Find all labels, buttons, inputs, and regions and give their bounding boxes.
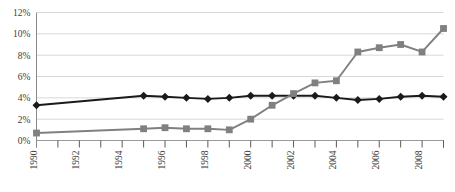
y-gridlines (37, 13, 444, 141)
y-tick-label: 10% (13, 29, 31, 39)
x-tick-label: 2002 (286, 150, 296, 169)
data-point-marker (226, 126, 233, 133)
y-tick-label: 4% (18, 93, 31, 103)
x-tick-label: 1998 (200, 150, 210, 169)
data-point-marker (312, 80, 319, 87)
data-point-marker (162, 124, 169, 131)
x-tick-label: 1994 (114, 150, 124, 169)
data-point-marker (440, 25, 447, 32)
x-tick-label: 1996 (157, 150, 167, 169)
y-axis-tick-labels: 0%2%4%6%8%10%12% (13, 8, 31, 146)
x-tick-label: 1992 (71, 150, 81, 169)
data-point-marker (33, 101, 41, 109)
data-point-marker (225, 94, 233, 102)
data-point-marker (161, 93, 169, 101)
x-tick-label: 2000 (243, 150, 253, 169)
data-point-marker (376, 44, 383, 51)
data-point-marker (290, 90, 297, 97)
data-point-marker (204, 95, 212, 103)
data-point-marker (397, 93, 405, 101)
series-line (37, 96, 444, 106)
y-tick-label: 8% (18, 51, 31, 61)
data-point-marker (204, 125, 211, 132)
x-tick-label: 1990 (29, 150, 39, 169)
data-point-marker (354, 49, 361, 56)
data-point-marker (268, 92, 276, 100)
data-point-marker (375, 95, 383, 103)
data-point-marker (311, 92, 319, 100)
series-lines (37, 29, 444, 134)
data-point-marker (332, 94, 340, 102)
y-tick-label: 6% (18, 72, 31, 82)
series-line (37, 29, 444, 134)
y-tick-label: 2% (18, 115, 31, 125)
chart-container: 0%2%4%6%8%10%12% 19901992199419961998200… (0, 0, 455, 192)
data-point-marker (247, 92, 255, 100)
x-axis-tick-labels: 1990199219941996199820002002200420062008 (29, 150, 425, 169)
data-point-marker (269, 102, 276, 109)
x-tick-label: 2004 (328, 150, 338, 169)
data-point-marker (440, 93, 448, 101)
data-point-marker (183, 125, 190, 132)
data-point-marker (418, 92, 426, 100)
data-point-marker (140, 92, 148, 100)
data-point-marker (354, 96, 362, 104)
data-point-marker (33, 130, 40, 137)
x-tick-label: 2006 (371, 150, 381, 169)
data-point-marker (419, 49, 426, 56)
data-point-marker (333, 77, 340, 84)
x-tickmarks (37, 141, 444, 148)
data-point-marker (247, 116, 254, 123)
data-point-marker (397, 41, 404, 48)
y-tick-label: 12% (13, 8, 31, 18)
data-point-marker (140, 125, 147, 132)
y-tick-label: 0% (18, 136, 31, 146)
data-point-marker (182, 94, 190, 102)
x-tick-label: 2008 (414, 150, 424, 169)
line-chart: 0%2%4%6%8%10%12% 19901992199419961998200… (0, 0, 455, 192)
series-markers (33, 25, 448, 136)
